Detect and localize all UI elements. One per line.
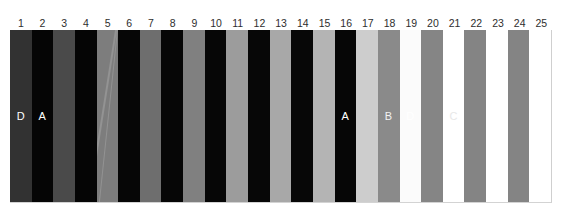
bar-index-label: 8 xyxy=(170,18,176,29)
bar-index-label: 17 xyxy=(362,18,374,29)
bar-index-tick: 22 xyxy=(465,8,487,28)
bar-index-label: 18 xyxy=(384,18,396,29)
bar-index-label: 11 xyxy=(232,18,243,29)
stripe-bar xyxy=(291,30,313,202)
bar-index-tick: 17 xyxy=(357,8,379,28)
stripe-bar: B xyxy=(378,30,400,202)
bar-index-tick: 9 xyxy=(184,8,206,28)
bar-index-tick: 16 xyxy=(335,8,357,28)
stripe-bar xyxy=(226,30,248,202)
scan-artifact-streak xyxy=(97,30,119,202)
bar-index-tick: 14 xyxy=(292,8,314,28)
bar-index-tick: 10 xyxy=(205,8,227,28)
stripe-bar xyxy=(356,30,378,202)
stripe-bar: A xyxy=(335,30,357,202)
stripe-bar xyxy=(205,30,227,202)
bar-index-label: 9 xyxy=(191,18,197,29)
bar-annotation-letter: B xyxy=(385,111,393,122)
bar-index-label: 15 xyxy=(319,18,331,29)
bar-index-tick: 12 xyxy=(249,8,271,28)
bar-index-tick: 11 xyxy=(227,8,249,28)
stripe-bar xyxy=(464,30,486,202)
bar-index-label: 22 xyxy=(470,18,482,29)
stripe-bar xyxy=(313,30,335,202)
stripe-bar: D xyxy=(10,30,32,202)
bar-annotation-letter: D xyxy=(17,111,25,122)
bar-annotation-letter: C xyxy=(449,111,457,122)
bar-index-tick: 15 xyxy=(314,8,336,28)
bar-index-tick: 21 xyxy=(444,8,466,28)
bar-index-axis: 1234567891011121314151617181920212223242… xyxy=(10,8,552,28)
bar-index-tick: 13 xyxy=(270,8,292,28)
stripe-bar: A xyxy=(32,30,54,202)
bar-index-tick: 25 xyxy=(531,8,553,28)
bar-index-tick: 1 xyxy=(10,8,32,28)
bar-index-label: 3 xyxy=(61,18,67,29)
stripe-bar xyxy=(486,30,508,202)
bar-index-label: 10 xyxy=(210,18,222,29)
bar-index-label: 20 xyxy=(427,18,439,29)
bar-index-tick: 6 xyxy=(118,8,140,28)
stripe-bar xyxy=(97,30,119,202)
stripe-bar xyxy=(508,30,530,202)
bar-index-tick: 20 xyxy=(422,8,444,28)
stripe-plot-area: DAABDC xyxy=(10,30,552,203)
bar-index-tick: 19 xyxy=(400,8,422,28)
grayscale-stripe-figure: 1234567891011121314151617181920212223242… xyxy=(0,0,565,219)
scan-artifact-streak xyxy=(97,30,119,202)
bar-index-tick: 24 xyxy=(509,8,531,28)
bar-index-tick: 8 xyxy=(162,8,184,28)
bar-index-label: 24 xyxy=(514,18,526,29)
bar-annotation-letter: A xyxy=(342,111,350,122)
stripe-bar xyxy=(270,30,292,202)
bar-index-tick: 7 xyxy=(140,8,162,28)
bar-index-tick: 4 xyxy=(75,8,97,28)
bar-index-label: 2 xyxy=(40,18,46,29)
bar-index-label: 5 xyxy=(105,18,111,29)
stripe-bar: D xyxy=(400,30,422,202)
stripe-bar xyxy=(53,30,75,202)
bar-annotation-letter: D xyxy=(406,111,414,122)
stripe-bar xyxy=(118,30,140,202)
bar-index-tick: 3 xyxy=(53,8,75,28)
bar-index-label: 23 xyxy=(492,18,504,29)
bar-index-label: 7 xyxy=(148,18,154,29)
bar-annotation-letter: A xyxy=(39,111,47,122)
stripe-bar xyxy=(140,30,162,202)
bar-index-label: 21 xyxy=(449,18,461,29)
bar-index-tick: 18 xyxy=(379,8,401,28)
bar-index-label: 4 xyxy=(83,18,89,29)
bar-index-tick: 2 xyxy=(32,8,54,28)
bar-index-label: 12 xyxy=(254,18,266,29)
bar-index-label: 16 xyxy=(340,18,352,29)
stripe-bar xyxy=(421,30,443,202)
bar-index-tick: 5 xyxy=(97,8,119,28)
bar-index-label: 1 xyxy=(18,18,24,29)
bar-index-label: 14 xyxy=(297,18,309,29)
stripe-bar xyxy=(75,30,97,202)
stripe-bar xyxy=(161,30,183,202)
bar-index-label: 13 xyxy=(275,18,287,29)
bar-index-label: 25 xyxy=(536,18,548,29)
bar-index-label: 19 xyxy=(405,18,417,29)
stripe-bar xyxy=(248,30,270,202)
stripe-bar xyxy=(529,30,551,202)
bar-index-tick: 23 xyxy=(487,8,509,28)
stripe-bar: C xyxy=(443,30,465,202)
stripe-bar xyxy=(183,30,205,202)
bar-index-label: 6 xyxy=(126,18,132,29)
